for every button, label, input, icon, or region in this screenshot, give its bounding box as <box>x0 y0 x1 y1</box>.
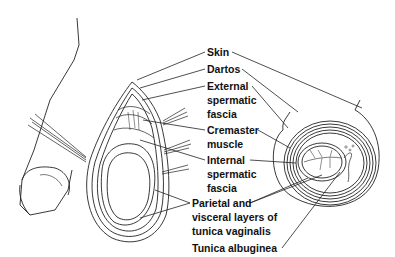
label-internal-spermatic-fascia: Internal <box>207 154 245 166</box>
label-tunica-vaginalis: Parietal and <box>192 197 252 209</box>
label-dartos: Dartos <box>207 63 240 75</box>
label-tunica-albuginea: Tunica albuginea <box>192 242 277 254</box>
label-internal-spermatic-fascia: spermatic <box>207 168 257 180</box>
label-external-spermatic-fascia: External <box>207 80 248 92</box>
label-internal-spermatic-fascia: fascia <box>207 182 237 194</box>
label-tunica-vaginalis: tunica vaginalis <box>192 225 271 237</box>
label-external-spermatic-fascia: spermatic <box>207 94 257 106</box>
label-cremaster-muscle: muscle <box>207 138 243 150</box>
opened-scrotum-illustration <box>87 82 169 242</box>
label-cremaster-muscle: Cremaster <box>207 124 259 136</box>
label-tunica-vaginalis: visceral layers of <box>192 211 277 223</box>
retractor-strands <box>28 108 191 174</box>
label-external-spermatic-fascia: fascia <box>207 108 237 120</box>
penis-illustration <box>20 18 79 215</box>
label-skin: Skin <box>207 46 229 58</box>
